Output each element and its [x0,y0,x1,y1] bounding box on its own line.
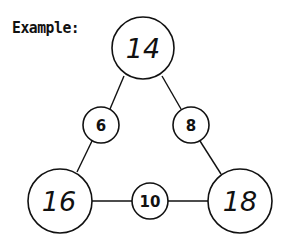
triangle-diagram: 14 16 18 6 8 10 [0,0,291,252]
edge-value-left: 6 [96,117,106,135]
edge-value-right: 8 [186,117,196,135]
corner-value-bottom-right: 18 [223,186,257,217]
corner-node-top: 14 [112,17,174,79]
connector-right-bottom [200,141,221,174]
example-label: Example: [12,18,79,37]
corner-value-top: 14 [126,33,160,64]
edge-node-left: 6 [83,107,119,143]
edge-node-bottom: 10 [132,183,168,219]
connector-top-right [162,76,181,109]
edge-value-bottom: 10 [140,193,161,211]
corner-node-bottom-left: 16 [28,169,92,233]
connector-left-bottom [77,141,92,172]
connector-top-left [110,76,124,109]
corner-value-bottom-left: 16 [42,186,76,217]
puzzle-diagram: Example: 14 16 18 6 8 [0,0,291,252]
edge-node-right: 8 [173,107,209,143]
corner-node-bottom-right: 18 [208,169,272,233]
